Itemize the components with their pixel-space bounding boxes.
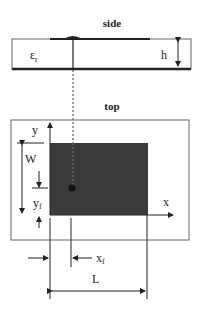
side-view: side εr h (12, 17, 191, 69)
width-label: W (25, 152, 37, 166)
height-label: h (161, 48, 167, 62)
microstrip-patch-antenna-diagram: side εr h top y x W yf (0, 0, 202, 317)
top-view-title: top (104, 100, 119, 112)
x-axis-label: x (163, 195, 169, 209)
feed-solder-icon (64, 36, 82, 39)
permittivity-label: εr (30, 48, 38, 64)
top-view: top y x W yf xf L (11, 100, 189, 299)
y-axis-label: y (32, 123, 38, 137)
feed-y-label: yf (33, 196, 42, 211)
feed-x-label: xf (96, 251, 105, 266)
patch (50, 143, 148, 215)
feed-point (69, 185, 76, 192)
length-label: L (92, 272, 99, 286)
side-view-title: side (103, 17, 121, 29)
